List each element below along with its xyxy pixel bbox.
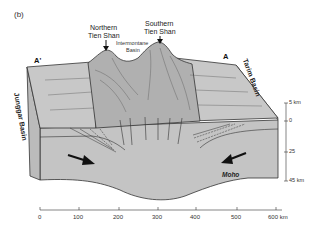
southern-tien-shan-label-line2: Tien Shan [144, 28, 176, 35]
depth-tick-5km: 5 km [289, 100, 301, 106]
distance-tick-200: 200 [113, 214, 123, 220]
distance-tick-300: 300 [152, 214, 162, 220]
northern-tien-shan-label-line1: Northern [90, 24, 117, 31]
intermontane-label-line1: Intermontane [116, 41, 148, 47]
distance-tick-500: 500 [231, 214, 241, 220]
depth-tick-0: 0 [289, 118, 292, 124]
crust-front-face [40, 120, 278, 200]
panel-label: (b) [14, 11, 24, 19]
block-diagram-figure: (b) Northern Tien Shan Southern Tien Sha… [0, 0, 318, 228]
peak-pointer-northern [103, 40, 109, 51]
distance-tick-100: 100 [73, 214, 83, 220]
southern-tien-shan-label-line1: Southern [145, 20, 173, 27]
distance-scale [40, 207, 282, 210]
distance-tick-600km: 600 km [268, 214, 288, 220]
distance-tick-400: 400 [190, 214, 200, 220]
intermontane-label-line2: Basin [126, 48, 140, 54]
section-endpoint-a-prime: A' [34, 57, 41, 65]
depth-tick-45km: 45 km [289, 178, 304, 184]
distance-tick-0: 0 [38, 214, 41, 220]
depth-tick-25: 25 [289, 149, 295, 155]
moho-label: Moho [222, 172, 239, 179]
northern-tien-shan-label-line2: Tien Shan [88, 32, 120, 39]
section-endpoint-a: A [223, 53, 228, 61]
depth-scale [284, 103, 288, 181]
